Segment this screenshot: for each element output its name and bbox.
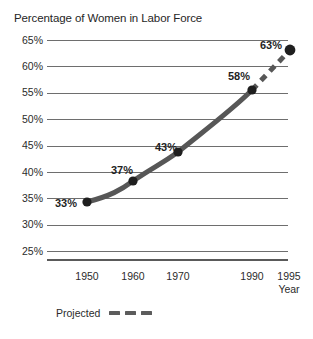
x-axis-title: Year [278,283,299,295]
x-tick-label-1960: 1960 [121,270,144,282]
legend-label-projected: Projected [56,307,100,319]
legend-dash-icon [141,311,152,315]
data-label-1990: 58% [228,70,250,82]
data-point-1950 [82,197,91,206]
legend-swatch-projected [109,311,152,315]
chart-legend: Projected [56,307,152,319]
projected-line [252,50,290,90]
x-tick-label-1970: 1970 [166,270,189,282]
legend-dash-icon [125,311,136,315]
x-tick-label-1950: 1950 [75,270,98,282]
data-point-1990 [247,85,256,94]
data-label-1995: 63% [260,39,282,51]
data-label-1970: 43% [155,141,177,153]
chart-container: Percentage of Women in Labor Force 65% 6… [0,0,313,339]
data-point-1995 [285,45,296,56]
data-label-1950: 33% [55,197,77,209]
legend-dash-icon [109,311,120,315]
data-point-1960 [128,176,137,185]
x-tick-label-1990: 1990 [240,270,263,282]
data-label-1960: 37% [111,164,133,176]
x-tick-label-1995: 1995 [277,270,300,282]
